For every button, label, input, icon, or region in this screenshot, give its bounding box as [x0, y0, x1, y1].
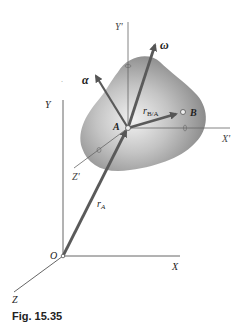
label-r-a: rA	[97, 198, 106, 211]
label-x-prime: X'	[221, 133, 231, 144]
label-z: Z	[12, 294, 18, 305]
label-o: O	[50, 250, 57, 261]
stray-mark: ·	[61, 79, 63, 85]
label-y: Y	[45, 99, 52, 110]
label-alpha: α	[82, 73, 89, 87]
figure-caption: Fig. 15.35	[12, 310, 62, 322]
label-a: A	[112, 121, 120, 132]
rigid-body-kinematics-diagram: Y' X' Z' Y X Z O A B ω α rB/A rA ·	[0, 0, 240, 327]
point-a	[126, 126, 131, 131]
label-z-prime: Z'	[72, 171, 81, 182]
label-y-prime: Y'	[115, 21, 124, 32]
label-r-a-sub: A	[100, 203, 106, 211]
label-b: B	[189, 107, 197, 118]
label-omega: ω	[160, 38, 169, 52]
label-x: X	[171, 261, 179, 272]
label-r-ba-sub: B/A	[147, 110, 159, 118]
point-b	[181, 110, 186, 115]
point-o	[61, 254, 65, 258]
z-axis	[14, 256, 63, 292]
